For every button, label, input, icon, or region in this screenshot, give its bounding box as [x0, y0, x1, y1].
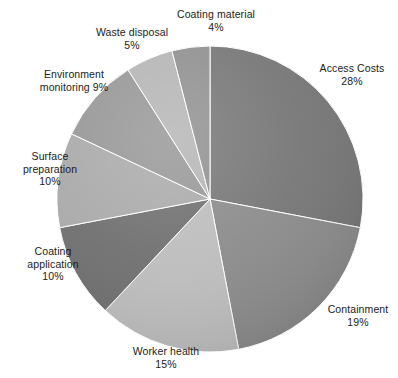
- pie-label-environment-monitoring: Environment monitoring 9%: [14, 68, 134, 93]
- pie-label-coating-material: Coating material 4%: [156, 8, 276, 33]
- pie-label-containment: Containment 19%: [318, 303, 398, 328]
- pie-label-coating-application: Coating application 10%: [12, 245, 94, 283]
- pie-label-worker-health: Worker health 15%: [106, 345, 226, 370]
- pie-label-surface-preparation: Surface preparation 10%: [8, 150, 92, 188]
- pie-label-access-costs: Access Costs 28%: [306, 62, 398, 87]
- pie-chart-figure: Access Costs 28% Containment 19% Worker …: [0, 0, 398, 378]
